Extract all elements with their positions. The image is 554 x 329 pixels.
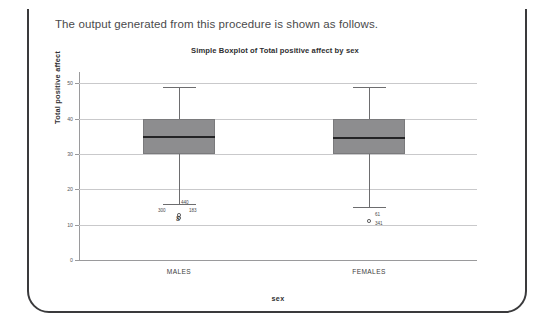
y-tick-label-30: 30 [57,151,73,157]
x-category-label-females: FEMALES [329,268,409,275]
males-outlier-label-183: 183 [189,208,197,213]
y-tick-40 [75,119,79,120]
y-tick-30 [75,154,79,155]
males-outlier-label-300: 300 [158,208,166,213]
males-lower-whisker-cap [163,204,196,205]
males-median-line [143,136,215,138]
y-tick-label-0: 0 [57,257,73,263]
females-median-line [333,137,405,139]
females-upper-whisker-cap [353,87,386,88]
males-lower-whisker [179,154,180,204]
gridline-50 [79,83,477,84]
boxplot-chart: Simple Boxplot of Total positive affect … [40,46,510,306]
males-upper-whisker-cap [163,87,196,88]
gridline-40 [79,119,477,120]
y-tick-10 [75,225,79,226]
gridline-10 [79,225,477,226]
y-axis-title: Total positive affect [53,51,62,124]
gridline-30 [79,154,477,155]
gridline-20 [79,189,477,190]
x-axis-title: sex [79,294,477,303]
chart-title: Simple Boxplot of Total positive affect … [40,46,510,55]
intro-text: The output generated from this procedure… [55,18,378,30]
females-lower-whisker-cap [353,207,386,208]
females-outlier-label-61: 61 [375,212,380,217]
x-axis-line [79,260,477,261]
plot-region: 50 40 30 20 10 0 Total positive affect 4… [79,72,477,260]
page-frame-top-mask [20,0,540,9]
males-outlier-label-8: 8 [176,216,180,221]
y-tick-0 [75,260,79,261]
females-lower-whisker [369,154,370,207]
males-outlier-label-440: 440 [181,200,189,205]
y-tick-20 [75,189,79,190]
females-outlier-marker [367,219,371,223]
females-upper-whisker [369,87,370,119]
females-outlier-label-341: 341 [375,221,383,226]
y-tick-50 [75,83,79,84]
x-category-label-males: MALES [139,268,219,275]
y-tick-label-20: 20 [57,186,73,192]
males-upper-whisker [179,87,180,119]
y-tick-label-10: 10 [57,222,73,228]
y-axis-line [79,72,80,260]
